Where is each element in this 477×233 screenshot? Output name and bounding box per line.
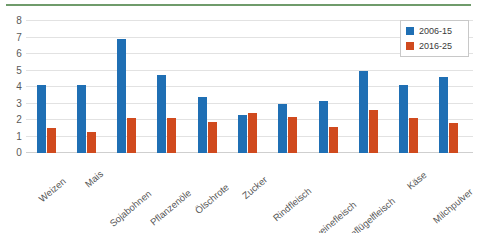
bar[interactable] [117,39,126,153]
bar[interactable] [127,118,136,153]
bar[interactable] [449,123,458,153]
legend-swatch-2016-25 [406,42,414,50]
chart-legend: 2006-15 2016-25 [400,20,469,57]
bar-group [268,21,308,153]
y-axis-tick-label: 3 [16,99,22,109]
bar-group [107,21,147,153]
top-divider-rule [6,4,471,6]
bar[interactable] [329,127,338,153]
y-axis-tick-label: 8 [16,16,22,26]
bar[interactable] [198,97,207,153]
bar[interactable] [208,122,217,153]
legend-label: 2016-25 [419,42,452,51]
legend-item[interactable]: 2006-15 [406,25,463,37]
bar[interactable] [288,117,297,153]
bar[interactable] [77,85,86,153]
bar[interactable] [399,85,408,153]
bar-group [348,21,388,153]
y-axis-tick-label: 4 [16,82,22,92]
bar[interactable] [167,118,176,153]
bar-group [308,21,348,153]
x-axis-tick-label: Zucker [240,175,268,201]
x-axis-tick-label: Ölschrote [194,182,231,215]
bar[interactable] [87,132,96,153]
bar-group [187,21,227,153]
bar[interactable] [409,118,418,153]
bar-group [147,21,187,153]
legend-swatch-2006-15 [406,27,414,35]
legend-label: 2006-15 [419,27,452,36]
x-axis-tick-label: Rindfleisch [271,186,313,223]
y-axis-tick-label: 0 [16,148,22,158]
x-axis-tick-label: Mais [84,169,105,189]
bar-group [26,21,66,153]
bar[interactable] [359,71,368,153]
y-axis: 012345678 [0,21,22,153]
x-axis-tick-label: Milchpulver [431,187,474,225]
x-axis-tick-label: Pflanzenöle [149,188,193,227]
bar[interactable] [369,110,378,153]
bar[interactable] [278,104,287,153]
x-axis-tick-label: Käse [405,170,428,191]
y-axis-tick-label: 6 [16,49,22,59]
bar[interactable] [47,128,56,153]
bar-group [66,21,106,153]
bar-chart: 012345678 WeizenMaisSojabohnenPflanzenöl… [0,0,477,233]
bar[interactable] [37,85,46,153]
bar[interactable] [248,113,257,153]
legend-item[interactable]: 2016-25 [406,40,463,52]
bar[interactable] [439,77,448,153]
bar[interactable] [157,75,166,153]
bar[interactable] [319,101,328,153]
y-axis-tick-label: 7 [16,33,22,43]
x-axis-tick-label: Weizen [37,176,67,204]
x-axis-tick-label: Sojabohnen [108,189,153,229]
y-axis-tick-label: 2 [16,115,22,125]
x-axis: WeizenMaisSojabohnenPflanzenöleÖlschrote… [26,156,473,231]
bar[interactable] [238,115,247,153]
y-axis-tick-label: 5 [16,66,22,76]
y-axis-tick-label: 1 [16,132,22,142]
bar-group [227,21,267,153]
